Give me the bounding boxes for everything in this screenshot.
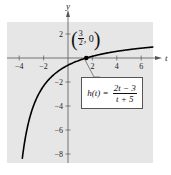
t-axis-label: t [165, 53, 168, 63]
t-axis-arrow-icon [155, 56, 162, 60]
x-tick-label: −2 [39, 62, 48, 71]
point-y-value: , 0 [84, 33, 94, 44]
formula-numerator: 2t − 3 [113, 83, 137, 94]
x-intercept-point [84, 56, 89, 61]
x-tick-label: 4 [115, 62, 119, 71]
x-tick-label: 6 [139, 62, 143, 71]
formula-lhs: h(t) = [87, 88, 108, 98]
y-tick-label: −6 [54, 126, 63, 135]
x-tick-label: −4 [15, 62, 24, 71]
open-paren: ( [71, 27, 78, 49]
formula-denominator: t + 5 [116, 94, 134, 104]
y-tick-label: −2 [54, 78, 63, 87]
close-paren: ) [94, 27, 101, 49]
formula-callout: h(t) = 2t − 3 t + 5 [81, 77, 143, 109]
y-tick-label: −4 [54, 102, 63, 111]
point-label: ( 3 2 , 0 ) [71, 28, 100, 48]
point-x-denominator: 2 [79, 39, 83, 47]
x-tick-label: 2 [90, 62, 94, 71]
formula-fraction: 2t − 3 t + 5 [113, 83, 137, 104]
y-axis-arrow-icon [66, 10, 70, 17]
y-tick-label: −8 [54, 150, 63, 159]
y-tick-label: 2 [59, 30, 63, 39]
y-axis-label: y [65, 1, 70, 11]
